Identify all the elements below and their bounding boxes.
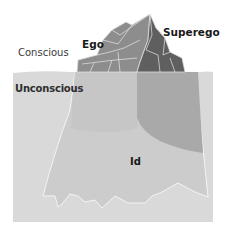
ego-submerged: [71, 72, 137, 132]
conscious-label: Conscious: [18, 48, 69, 58]
ego-label: Ego: [82, 39, 104, 50]
superego-label: Superego: [163, 27, 220, 38]
unconscious-label: Unconscious: [15, 84, 83, 94]
id-label: Id: [130, 157, 141, 167]
iceberg-diagram: Conscious Unconscious Ego Superego Id: [0, 0, 231, 230]
